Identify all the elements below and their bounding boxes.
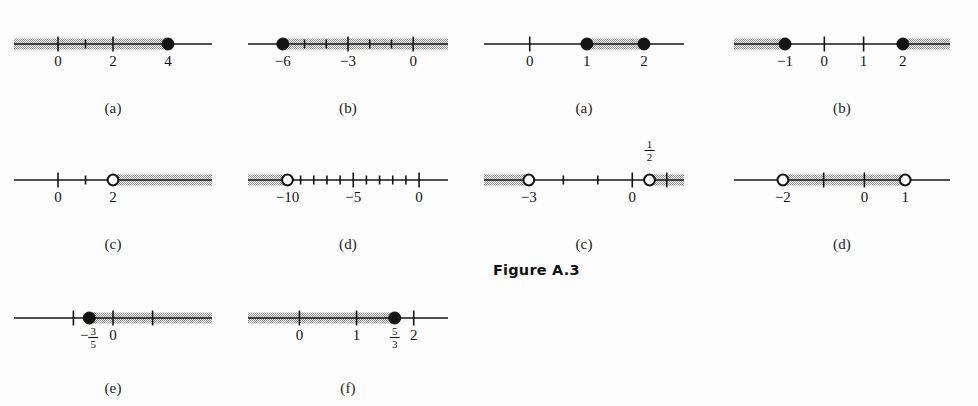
closed-endpoint-dot [779,38,791,50]
number-line-left-e: 0−35 [8,296,218,364]
endpoint-label: −1 [777,53,793,69]
panel-caption-right-c: (c) [478,236,690,253]
tick-label: 0 [821,53,829,69]
panel-caption-left-d: (d) [242,236,454,253]
svg-text:2: 2 [647,151,653,163]
tick-label: −3 [340,53,356,69]
number-line-panel-left-c: 02(c) [8,158,218,220]
number-line-right-a: 012 [478,22,690,84]
tick-label: 1 [353,327,361,343]
open-endpoint-dot [644,175,655,186]
panel-caption-left-e: (e) [8,380,218,397]
number-line-left-f: 01253 [242,296,454,364]
endpoint-label: −2 [775,189,791,205]
endpoint-label: −10 [276,189,299,205]
endpoint-label: 1 [901,189,909,205]
endpoint-label: 4 [164,53,172,69]
endpoint-label: 2 [899,53,907,69]
panel-caption-right-d: (d) [728,236,956,253]
panel-caption-left-f: (f) [242,380,454,397]
open-endpoint-dot [282,175,293,186]
tick-label: 2 [410,327,418,343]
tick-label: 0 [861,189,869,205]
closed-endpoint-dot [162,38,174,50]
panel-caption-left-c: (c) [8,236,218,253]
tick-label: 0 [54,189,62,205]
number-line-left-b: −30−6 [242,22,454,84]
tick-label: 1 [860,53,868,69]
endpoint-label: −6 [275,53,291,69]
svg-text:3: 3 [90,325,96,337]
endpoint-fraction-label: 12 [645,138,655,163]
endpoint-label: 2 [640,53,648,69]
tick-label: 0 [409,53,417,69]
open-endpoint-dot [900,175,911,186]
number-line-left-a: 024 [8,22,218,84]
tick-label: 0 [415,189,423,205]
open-endpoint-dot [778,175,789,186]
svg-text:−: − [80,327,88,343]
closed-endpoint-dot [389,312,401,324]
number-line-panel-right-a: 012(a) [478,22,690,84]
number-line-left-d: −50−10 [242,158,454,220]
svg-text:3: 3 [392,338,398,350]
number-line-panel-left-b: −30−6(b) [242,22,454,84]
tick-label: 0 [629,189,637,205]
number-line-panel-right-c: 0−312(c) [478,158,690,220]
endpoint-label: −3 [521,189,537,205]
number-line-panel-right-d: 0−21(d) [728,158,956,220]
number-line-panel-right-b: 01−12(b) [728,22,956,84]
open-endpoint-dot [523,175,534,186]
svg-text:5: 5 [90,338,96,350]
number-line-right-b: 01−12 [728,22,956,84]
svg-text:1: 1 [647,138,653,150]
panel-caption-left-a: (a) [8,100,218,117]
tick-label: 0 [296,327,304,343]
number-line-panel-left-d: −50−10(d) [242,158,454,220]
svg-text:5: 5 [392,325,398,337]
panel-caption-left-b: (b) [242,100,454,117]
tick-label: −5 [345,189,361,205]
number-line-panel-left-a: 024(a) [8,22,218,84]
endpoint-label: 1 [583,53,591,69]
endpoint-fraction-label: −35 [80,325,98,350]
closed-endpoint-dot [581,38,593,50]
panel-caption-right-b: (b) [728,100,956,117]
closed-endpoint-dot [83,312,95,324]
tick-label: 2 [109,53,117,69]
endpoint-fraction-label: 53 [390,325,400,350]
tick-label: 0 [54,53,62,69]
closed-endpoint-dot [638,38,650,50]
number-line-panel-left-f: 01253(f) [242,296,454,364]
figure-a3: 024(a)−30−6(b)02(c)−50−10(d)0−35(e)01253… [0,0,978,406]
number-line-right-d: 0−21 [728,158,956,220]
number-line-right-c: 0−312 [478,158,690,220]
panel-caption-right-a: (a) [478,100,690,117]
tick-label: 0 [109,327,117,343]
endpoint-label: 2 [109,189,117,205]
figure-label: Figure A.3 [493,262,580,278]
number-line-panel-left-e: 0−35(e) [8,296,218,364]
number-line-left-c: 02 [8,158,218,220]
open-endpoint-dot [108,175,119,186]
closed-endpoint-dot [277,38,289,50]
closed-endpoint-dot [897,38,909,50]
tick-label: 0 [526,53,534,69]
